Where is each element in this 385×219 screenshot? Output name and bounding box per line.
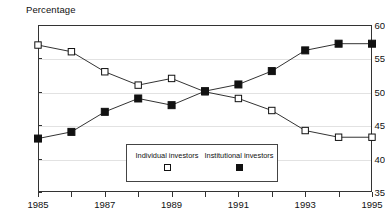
x-axis-tick-label: 1987 [94,199,115,210]
x-axis-tick [305,192,306,197]
x-axis-tick [339,192,340,197]
x-axis-tick-label: 1993 [295,199,316,210]
legend-entry-individual-investors: Individual investors [131,151,203,161]
filled-square-marker-icon [236,164,243,171]
filled-square-data-point [68,128,75,135]
open-square-data-point [302,127,308,133]
x-axis-tick-label: 1989 [161,199,182,210]
legend-label-institutional-investors: Institutional investors [203,151,275,161]
legend: Individual investors Institutional inves… [126,144,278,182]
x-axis-tick [372,192,373,197]
x-axis-tick-label: 1991 [228,199,249,210]
open-square-data-point [68,49,74,55]
filled-square-data-point [135,95,142,102]
x-axis-tick [172,192,173,197]
legend-label-individual-investors: Individual investors [131,151,203,161]
open-square-data-point [235,95,241,101]
legend-entry-institutional-investors: Institutional investors [203,151,275,161]
filled-square-data-point [369,40,376,47]
open-square-data-point [335,134,341,140]
x-axis-tick [71,192,72,197]
open-square-data-point [135,82,141,88]
open-square-marker-icon [164,164,171,171]
series-institutional-investors [35,40,376,142]
filled-square-data-point [202,88,209,95]
filled-square-data-point [335,40,342,47]
x-axis-tick [105,192,106,197]
x-axis-tick-label: 1995 [361,199,382,210]
x-axis-tick [205,192,206,197]
filled-square-data-point [268,68,275,75]
x-axis-tick [38,192,39,197]
filled-square-data-point [302,47,309,54]
y-axis-title: Percentage [26,4,76,15]
x-axis-tick [238,192,239,197]
open-square-data-point [102,69,108,75]
x-axis-tick [272,192,273,197]
open-square-data-point [35,42,41,48]
filled-square-data-point [168,102,175,109]
percentage-line-chart: Percentage 354045505560 1985198719891991… [0,0,385,219]
x-axis-tick [138,192,139,197]
filled-square-data-point [35,135,42,142]
x-axis-tick-label: 1985 [27,199,48,210]
open-square-data-point [269,107,275,113]
filled-square-data-point [101,108,108,115]
open-square-data-point [168,75,174,81]
open-square-data-point [369,134,375,140]
filled-square-data-point [235,81,242,88]
